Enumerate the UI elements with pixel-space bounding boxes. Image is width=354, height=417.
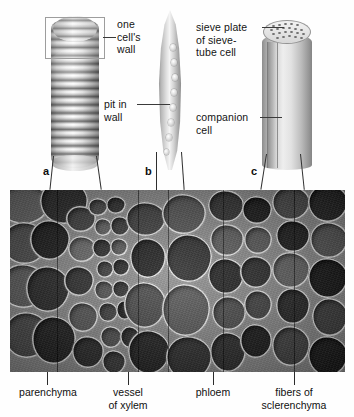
- pit-in-wall-leader: [137, 104, 170, 105]
- tick-fibers-of-sclerenchyma: [294, 372, 295, 385]
- one-cells-wall-highlight-box: [45, 17, 105, 59]
- plant-tissue-figure: one cell's wall pit in wall: [0, 0, 354, 417]
- micrograph-divider: [168, 190, 169, 372]
- companion-cell-strip: [267, 42, 278, 168]
- panel-c-sieve-tube-cell: [258, 18, 320, 170]
- sem-micrograph: [10, 190, 345, 372]
- panel-letter-a: a: [43, 165, 49, 177]
- panel-letter-b: b: [145, 165, 152, 177]
- caption-parenchyma: parenchyma: [2, 386, 94, 399]
- pit-icon: [168, 119, 174, 126]
- companion-cell-leader: [260, 117, 282, 118]
- pit-icon: [164, 149, 169, 155]
- one-cells-wall-leader: [103, 37, 116, 38]
- one-cells-wall-label: one cell's wall: [117, 18, 141, 56]
- pit-icon: [171, 89, 177, 96]
- tick-vessel-of-xylem: [128, 372, 129, 385]
- pit-icon: [170, 104, 176, 111]
- micrograph-divider: [138, 190, 139, 372]
- panel-b-sclerenchyma-fiber: [152, 10, 188, 170]
- caption-vessel-of-xylem: vessel of xylem: [88, 386, 168, 411]
- companion-cell-label: companion cell: [196, 111, 248, 136]
- micrograph-divider: [294, 190, 295, 372]
- tick-parenchyma: [47, 372, 48, 385]
- sieve-plate-icon: [263, 20, 311, 44]
- panel-letter-c: c: [251, 165, 257, 177]
- caption-phloem: phloem: [180, 386, 246, 399]
- pit-icon: [171, 59, 177, 66]
- pit-icon: [172, 74, 178, 81]
- micrograph-divider: [223, 190, 224, 372]
- pit-in-wall-label: pit in wall: [104, 98, 127, 123]
- sieve-plate-label: sieve plate of sieve- tube cell: [196, 21, 247, 59]
- tick-phloem: [213, 372, 214, 385]
- sieve-plate-leader: [262, 27, 284, 28]
- pit-icon: [166, 134, 172, 141]
- micrograph-divider: [57, 190, 58, 372]
- vessel-element-base: [52, 155, 98, 171]
- fiber-illustration: [158, 10, 182, 170]
- pit-icon: [170, 44, 176, 51]
- panel-b-leader-left: [156, 152, 157, 190]
- caption-fibers-of-sclerenchyma: fibers of sclerenchyma: [242, 386, 346, 411]
